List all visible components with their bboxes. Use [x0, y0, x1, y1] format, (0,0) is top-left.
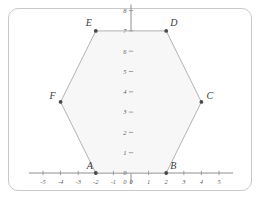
y-tick-label: 8: [123, 7, 127, 14]
x-tick-label: 4: [200, 178, 204, 185]
vertex-dot-a: [94, 171, 98, 175]
x-tick-label: -3: [75, 178, 81, 185]
origin-label: 0: [123, 178, 127, 185]
vertex-dot-e: [94, 29, 98, 33]
x-tick-label: -5: [40, 178, 46, 185]
vertex-label-d: D: [169, 17, 178, 28]
vertex-dot-d: [164, 29, 168, 33]
hexagon-shape: [61, 31, 202, 173]
vertex-label-e: E: [85, 17, 92, 28]
vertex-dot-b: [164, 171, 168, 175]
vertex-label-b: B: [170, 160, 176, 171]
vertex-label-a: A: [86, 160, 94, 171]
x-tick-label: 5: [217, 178, 221, 185]
vertex-dot-f: [59, 100, 63, 104]
figure-container: -5-4-3-2-1012345 0123456780 ABCDEF: [0, 0, 260, 199]
coordinate-plane: -5-4-3-2-1012345 0123456780 ABCDEF: [0, 0, 260, 199]
hexagon-polygon: [61, 31, 202, 173]
vertex-dot-c: [200, 100, 204, 104]
x-tick-label: 0: [129, 178, 133, 185]
x-tick-label: -4: [58, 178, 64, 185]
x-tick-label: 3: [181, 178, 186, 185]
vertex-label-c: C: [206, 90, 213, 101]
y-tick-label: 1: [123, 149, 126, 156]
x-tick-label: 1: [147, 178, 150, 185]
x-tick-label: 2: [165, 178, 169, 185]
x-tick-label: -2: [93, 178, 99, 185]
vertex-label-f: F: [49, 90, 57, 101]
x-tick-label: -1: [111, 178, 116, 185]
